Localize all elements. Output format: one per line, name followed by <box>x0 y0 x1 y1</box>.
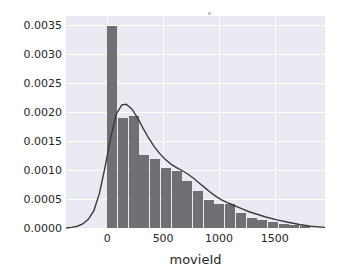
x-axis-ticks: 050010001500 <box>66 233 325 247</box>
y-tick-label: 0.0035 <box>2 19 62 30</box>
x-tick-label: 1000 <box>205 233 233 244</box>
y-tick-label: 0.0000 <box>2 223 62 234</box>
x-tick-label: 500 <box>153 233 174 244</box>
distribution-plot-screenshot: 0.00000.00050.00100.00150.00200.00250.00… <box>0 0 342 277</box>
y-tick-label: 0.0020 <box>2 106 62 117</box>
x-axis-label: movieId <box>66 252 325 267</box>
gridline-horizontal-0 <box>66 228 325 229</box>
y-tick-label: 0.0025 <box>2 77 62 88</box>
scan-artifact-speck <box>208 12 211 15</box>
y-axis-ticks: 0.00000.00050.00100.00150.00200.00250.00… <box>0 16 62 228</box>
y-tick-label: 0.0005 <box>2 193 62 204</box>
y-tick-label: 0.0030 <box>2 48 62 59</box>
y-tick-label: 0.0015 <box>2 135 62 146</box>
kde-curve <box>66 16 325 228</box>
y-tick-label: 0.0010 <box>2 164 62 175</box>
x-tick-label: 1500 <box>261 233 289 244</box>
x-tick-label: 0 <box>104 233 111 244</box>
plot-area <box>66 16 325 228</box>
